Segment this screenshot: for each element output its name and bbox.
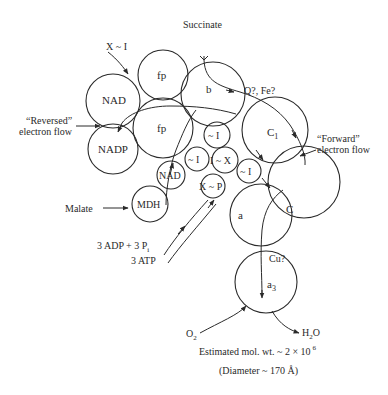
label-c1: C1 bbox=[267, 126, 278, 141]
label-nadp: NADP bbox=[98, 143, 128, 155]
circle-a3 bbox=[235, 251, 297, 313]
label-reversed-line2: electron flow bbox=[19, 126, 73, 137]
respiratory-chain-diagram: fp NAD NADP fp b C1 ~ I ~ I I ~ X ~ I NA… bbox=[0, 0, 388, 395]
label-forward-line1: “Forward” bbox=[317, 133, 360, 144]
label-nad-small: NAD bbox=[159, 170, 181, 181]
circle-c bbox=[268, 146, 340, 218]
label-diameter: (Diameter ~ 170 Å) bbox=[219, 365, 298, 377]
label-adp: 3 ADP + 3 Pi bbox=[97, 240, 149, 254]
label-q-fe: Q?, Fe? bbox=[244, 85, 276, 96]
circle-c1 bbox=[242, 97, 308, 163]
label-fp-main: fp bbox=[157, 122, 167, 134]
label-i-right: ~ I bbox=[240, 166, 251, 177]
label-i-left: ~ I bbox=[188, 154, 199, 165]
label-i-x: I ~ X bbox=[210, 155, 232, 166]
label-x-i: X ~ I bbox=[106, 41, 127, 52]
label-b: b bbox=[206, 83, 212, 95]
label-reversed-line1: “Reversed” bbox=[26, 115, 72, 126]
label-mol-wt: Estimated mol. wt. ~ 2 × 106 bbox=[199, 344, 317, 357]
label-mdh: MDH bbox=[137, 199, 160, 210]
circle-b bbox=[181, 62, 245, 126]
label-cu: Cu? bbox=[269, 253, 286, 264]
label-o2: O2 bbox=[186, 328, 197, 342]
label-h2o: H2O bbox=[302, 327, 320, 341]
label-forward-line2: electron flow bbox=[317, 144, 371, 155]
external-labels: Succinate X ~ I Q?, Fe? “Reversed” elect… bbox=[19, 19, 371, 377]
label-c: C bbox=[286, 203, 293, 215]
label-i-upper: ~ I bbox=[208, 130, 219, 141]
label-succinate: Succinate bbox=[183, 19, 222, 30]
label-fp-top: fp bbox=[157, 69, 167, 81]
label-nad-left: NAD bbox=[102, 94, 126, 106]
label-a: a bbox=[238, 209, 243, 221]
label-malate: Malate bbox=[65, 203, 93, 214]
label-x-p: X ~ P bbox=[199, 181, 223, 192]
label-a3: a3 bbox=[267, 278, 276, 293]
label-atp: 3 ATP bbox=[131, 255, 156, 266]
